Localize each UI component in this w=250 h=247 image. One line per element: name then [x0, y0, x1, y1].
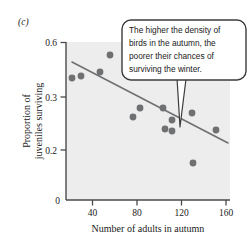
x-tick-label-160: 160 [219, 208, 234, 218]
y-axis-title-line-1: Proportion of [21, 94, 32, 148]
y-tick-label-0: 0 [55, 196, 60, 206]
data-point [169, 128, 176, 135]
y-tick-label-0-2: 0.2 [45, 146, 57, 156]
panel-label: (c) [18, 17, 29, 28]
data-point [213, 127, 220, 134]
data-point [160, 105, 167, 112]
y-tick-label-0-6: 0.6 [45, 38, 57, 48]
data-point [137, 105, 144, 112]
x-tick-label-80: 80 [132, 208, 142, 218]
x-tick-label-40: 40 [88, 208, 98, 218]
x-axis-title: Number of adults in autumn [92, 223, 205, 234]
callout-line-2: birds in the autumn, the [129, 38, 216, 48]
data-point [107, 52, 114, 59]
y-tick-label-0-3: 0.3 [45, 93, 57, 103]
data-point [78, 73, 85, 80]
figure-panel-c: The higher the density of birds in the a… [0, 0, 250, 247]
data-point [97, 69, 104, 76]
y-axis-title-line-2: juveniles surviving [33, 83, 44, 160]
callout-line-1: The higher the density of [129, 25, 221, 35]
data-point [190, 160, 197, 167]
data-point [69, 75, 76, 82]
data-point [169, 117, 176, 124]
data-point [130, 114, 137, 121]
callout-line-4: surviving the winter. [129, 64, 202, 74]
data-point [162, 126, 169, 133]
callout-line-3: poorer their chances of [129, 51, 215, 61]
x-tick-label-120: 120 [174, 208, 189, 218]
data-point [189, 110, 196, 117]
